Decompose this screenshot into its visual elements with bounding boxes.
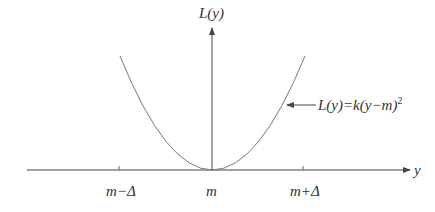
y-axis-label: L(y) — [199, 6, 224, 21]
curve-formula: L(y)=k(y−m) — [318, 97, 397, 113]
x-axis-label: y — [414, 163, 421, 178]
tick-label-m-plus-delta: m+Δ — [290, 184, 320, 199]
loss-function-diagram: L(y) y L(y)=k(y−m)2 m−Δ m m+Δ — [0, 0, 435, 212]
curve-exponent: 2 — [397, 95, 402, 106]
curve-label: L(y)=k(y−m)2 — [318, 96, 402, 113]
tick-label-m: m — [206, 184, 217, 199]
tick-label-m-minus-delta: m−Δ — [106, 184, 136, 199]
